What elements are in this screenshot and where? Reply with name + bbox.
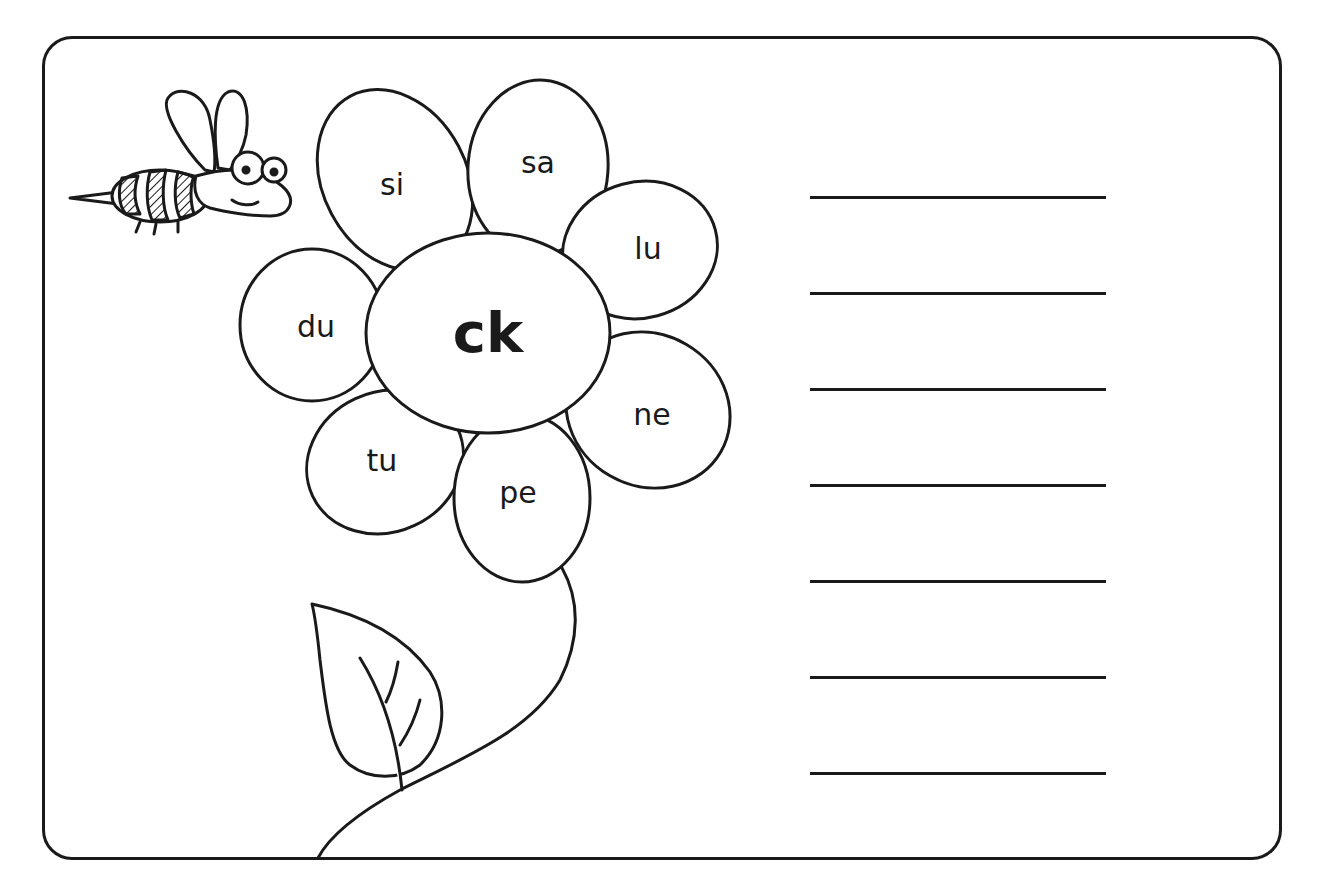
petal-label-sa: sa	[521, 145, 555, 180]
answer-line-3[interactable]	[810, 388, 1106, 391]
bee-icon	[70, 91, 291, 234]
worksheet-illustration	[0, 0, 1318, 890]
center-sound: ck	[453, 300, 523, 365]
petal-label-lu: lu	[634, 231, 661, 266]
petal-label-tu: tu	[367, 443, 398, 478]
answer-line-1[interactable]	[810, 196, 1106, 199]
leaf-icon	[312, 604, 442, 790]
answer-line-4[interactable]	[810, 484, 1106, 487]
petal-label-du: du	[297, 309, 335, 344]
answer-line-5[interactable]	[810, 580, 1106, 583]
petal-label-ne: ne	[633, 397, 670, 432]
answer-line-6[interactable]	[810, 676, 1106, 679]
answer-line-2[interactable]	[810, 292, 1106, 295]
petal-label-pe: pe	[499, 475, 537, 510]
petal-label-si: si	[380, 167, 404, 202]
answer-line-7[interactable]	[810, 772, 1106, 775]
